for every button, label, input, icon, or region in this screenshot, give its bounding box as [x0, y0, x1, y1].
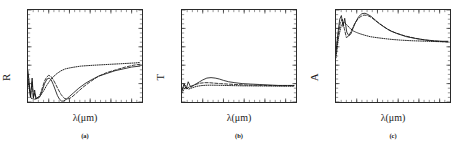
y-axis-label-a: R [0, 73, 12, 81]
panel-label-a: (a) [27, 132, 143, 139]
series-dotted [182, 85, 294, 93]
plot-area-b: 0.00.20.40.60.81.01×10⁻⁵2×10⁻⁵3×10⁻⁵4×10… [181, 9, 297, 103]
x-axis-label-b: λ(μm) [181, 112, 297, 123]
plot-area-c: 0.00.20.40.60.81.01×10⁻⁵2×10⁻⁵3×10⁻⁵4×10… [335, 9, 451, 103]
plot-svg-c [336, 10, 450, 102]
panel-c: A 0.00.20.40.60.81.01×10⁻⁵2×10⁻⁵3×10⁻⁵4×… [308, 0, 462, 154]
y-axis-label-c: A [308, 73, 320, 81]
series-dashed [336, 15, 448, 54]
plot-svg-a [28, 10, 142, 102]
panel-label-b: (b) [181, 132, 297, 139]
plot-svg-b [182, 10, 296, 102]
y-axis-label-b: T [154, 73, 166, 80]
x-axis-label-c: λ(μm) [335, 112, 451, 123]
series-solid [28, 66, 140, 101]
panel-label-c: (c) [335, 132, 451, 139]
x-axis-label-a: λ(μm) [27, 112, 143, 123]
panel-a: R 0.00.20.40.60.81.01×10⁻⁵2×10⁻⁵3×10⁻⁵4×… [0, 0, 154, 154]
panel-b: T 0.00.20.40.60.81.01×10⁻⁵2×10⁻⁵3×10⁻⁵4×… [154, 0, 308, 154]
series-dashed [28, 64, 140, 99]
figure-panels: R 0.00.20.40.60.81.01×10⁻⁵2×10⁻⁵3×10⁻⁵4×… [0, 0, 462, 154]
series-solid [336, 13, 448, 51]
series-solid [182, 78, 294, 91]
plot-area-a: 0.00.20.40.60.81.01×10⁻⁵2×10⁻⁵3×10⁻⁵4×10… [27, 9, 143, 103]
